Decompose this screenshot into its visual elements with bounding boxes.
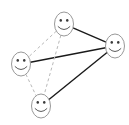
edge-top-bottom <box>44 35 61 94</box>
node-layer <box>12 12 125 118</box>
edge-left-bottom <box>26 74 36 95</box>
node-bottom[interactable] <box>32 94 51 118</box>
eye-icon-left <box>37 101 40 104</box>
face-outline-icon <box>55 12 74 36</box>
node-left[interactable] <box>12 52 31 76</box>
eye-icon-right <box>43 101 46 104</box>
edge-left-right <box>30 48 105 62</box>
eye-icon-left <box>111 41 114 44</box>
face-outline-icon <box>32 94 51 118</box>
node-right[interactable] <box>106 34 125 58</box>
eye-icon-right <box>66 19 69 22</box>
edge-top-right <box>73 28 106 42</box>
eye-icon-left <box>17 59 20 62</box>
face-outline-icon <box>106 34 125 58</box>
graph-svg <box>0 0 129 125</box>
edge-bottom-right <box>49 52 107 99</box>
eye-icon-right <box>23 59 26 62</box>
graph-canvas <box>0 0 129 125</box>
edge-layer <box>26 28 107 100</box>
eye-icon-right <box>117 41 120 44</box>
eye-icon-left <box>60 19 63 22</box>
edge-top-left <box>29 31 57 57</box>
face-outline-icon <box>12 52 31 76</box>
node-top[interactable] <box>55 12 74 36</box>
